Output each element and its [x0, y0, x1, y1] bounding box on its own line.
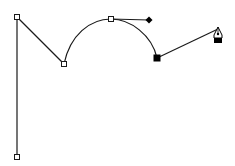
bezier-path[interactable] — [17, 17, 218, 157]
path-canvas[interactable] — [0, 0, 235, 166]
handle-point-icon[interactable] — [145, 16, 152, 23]
path-segment-diagonal[interactable] — [17, 17, 64, 64]
path-segment-curve-down[interactable] — [111, 19, 157, 58]
anchor-arc-top[interactable] — [109, 17, 114, 22]
pen-tool-cursor-icon — [214, 27, 222, 43]
path-segment-curve-up[interactable] — [64, 19, 111, 64]
anchor-top-left[interactable] — [15, 15, 20, 20]
anchor-valley[interactable] — [62, 62, 67, 67]
anchor-selected[interactable] — [154, 55, 160, 61]
anchor-bottom[interactable] — [15, 155, 20, 160]
path-segment-rubber-band — [157, 29, 218, 58]
